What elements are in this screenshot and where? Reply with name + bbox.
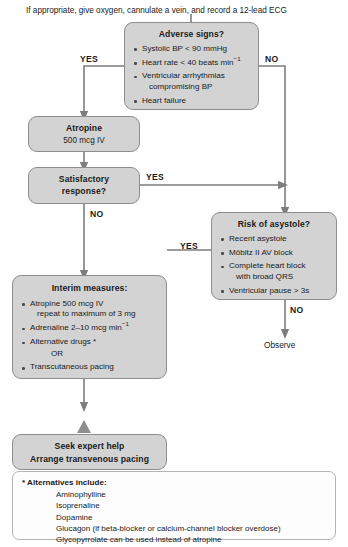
satisfactory-line2: response? (34, 186, 134, 197)
superscript: −1 (122, 320, 129, 327)
list-item-continuation: repeat to maximum of 3 mg (21, 309, 158, 320)
node-satisfactory-response: Satisfactory response? (28, 167, 140, 204)
seek-help-line1: Seek expert help (18, 441, 161, 452)
node-risk-of-asystole: Risk of asystole? Recent asystole Möbitz… (211, 212, 337, 300)
list-item: Alternative drugs * (21, 337, 158, 348)
list-item: Ventricular arrhythmias (133, 71, 250, 82)
satisfactory-line1: Satisfactory (34, 174, 134, 185)
list-item: Atropine 500 mcg IV (21, 299, 158, 310)
observe-endpoint: Observe (264, 340, 295, 350)
node-seek-expert-help: Seek expert help Arrange transvenous pac… (12, 434, 167, 470)
list-item: Möbitz II AV block (220, 248, 328, 259)
triangle-marker-icon (77, 420, 91, 433)
label-yes-asystole: YES (180, 241, 198, 251)
list-item: Recent asystole (220, 234, 328, 245)
atropine-dose: 500 mcg IV (34, 136, 134, 147)
atropine-title: Atropine (34, 123, 134, 134)
list-item: Glycopyrrolate can be used instead of at… (56, 534, 326, 545)
list-item-or: OR (21, 349, 158, 360)
superscript: −1 (234, 55, 241, 62)
label-no-satisfactory: NO (90, 209, 103, 219)
list-item: Complete heart block (220, 261, 328, 272)
interim-measures-list: Atropine 500 mcg IV repeat to maximum of… (21, 299, 158, 373)
header-instruction: If appropriate, give oxygen, cannulate a… (26, 6, 287, 15)
list-item: Glucagon (if beta-blocker or calcium-cha… (56, 523, 326, 534)
list-item: Systolic BP < 90 mmHg (133, 44, 250, 55)
risk-asystole-title: Risk of asystole? (220, 219, 328, 230)
list-item: Aminophylline (56, 489, 326, 500)
node-atropine: Atropine 500 mcg IV (28, 116, 140, 152)
label-yes-adverse-signs: YES (80, 54, 98, 64)
seek-help-line2: Arrange transvenous pacing (18, 454, 161, 465)
list-item-text: Heart rate < 40 beats min (142, 58, 234, 67)
node-adverse-signs: Adverse signs? Systolic BP < 90 mmHg Hea… (124, 22, 259, 110)
list-item-continuation: with broad QRS (220, 272, 328, 283)
footnote-heading: * Alternatives include: (22, 478, 326, 487)
node-interim-measures: Interim measures: Atropine 500 mcg IV re… (12, 275, 167, 379)
adverse-signs-list: Systolic BP < 90 mmHg Heart rate < 40 be… (133, 44, 250, 107)
list-item-text: Adrenaline 2–10 mcg min (30, 323, 122, 332)
list-item: Isoprenaline (56, 500, 326, 511)
risk-asystole-list: Recent asystole Möbitz II AV block Compl… (220, 234, 328, 297)
label-yes-satisfactory: YES (146, 172, 164, 182)
interim-measures-title: Interim measures: (21, 283, 158, 294)
footnote-list: Aminophylline Isoprenaline Dopamine Gluc… (22, 489, 326, 546)
list-item: Transcutaneous pacing (21, 362, 158, 373)
label-no-adverse-signs: NO (265, 54, 278, 64)
list-item-continuation: compromising BP (133, 82, 250, 93)
list-item: Ventricular pause > 3s (220, 286, 328, 297)
label-no-asystole: NO (290, 305, 303, 315)
bradycardia-algorithm-flowchart: If appropriate, give oxygen, cannulate a… (0, 0, 348, 547)
list-item: Adrenaline 2–10 mcg min−1 (21, 323, 158, 334)
list-item: Dopamine (56, 512, 326, 523)
list-item: Heart failure (133, 96, 250, 107)
footnote-alternatives: * Alternatives include: Aminophylline Is… (12, 471, 336, 540)
list-item: Heart rate < 40 beats min−1 (133, 58, 250, 69)
adverse-signs-title: Adverse signs? (133, 29, 250, 40)
